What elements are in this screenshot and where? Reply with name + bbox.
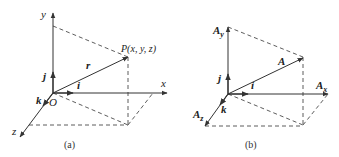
point-p-label: P(x, y, z) — [120, 43, 157, 55]
origin-label: O — [49, 96, 57, 108]
projection-lines — [29, 26, 153, 125]
vector-a-label: A — [277, 55, 285, 67]
y-axis-label: y — [40, 8, 46, 20]
caption-b: (b) — [245, 139, 257, 151]
component-az-label: Az — [192, 108, 204, 123]
vector-diagram: y x z O P(x, y, z) r i j k (a) Ay Ax Az … — [0, 0, 339, 157]
unit-k-label: k — [36, 94, 42, 106]
panel-a: y x z O P(x, y, z) r i j k (a) — [11, 8, 167, 151]
component-ay-label: Ay — [212, 24, 224, 39]
caption-a: (a) — [64, 139, 75, 151]
unit-i-label: i — [77, 79, 81, 91]
unit-k-label-b: k — [221, 103, 227, 115]
vector-r-label: r — [86, 59, 91, 71]
unit-j-label-b: j — [216, 72, 222, 84]
z-axis-label: z — [11, 125, 17, 137]
x-axis-label: x — [160, 77, 166, 89]
unit-j-label: j — [41, 70, 47, 82]
vector-a-arrow — [228, 58, 303, 94]
panel-b: Ay Ax Az A i j k (b) — [192, 24, 328, 151]
component-ax-label: Ax — [315, 79, 327, 94]
position-vector-r — [53, 57, 128, 93]
